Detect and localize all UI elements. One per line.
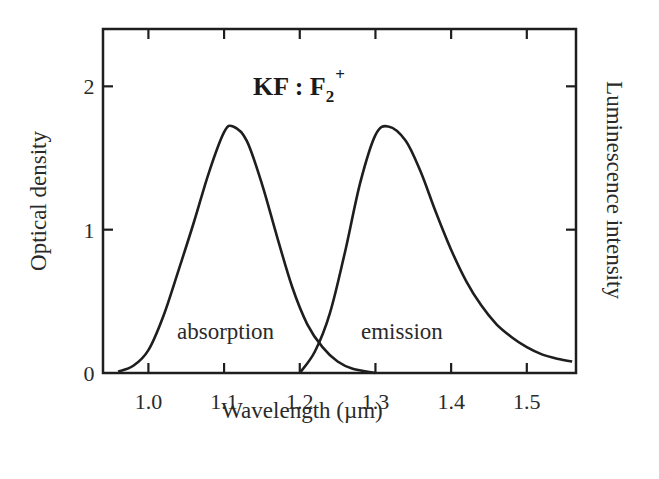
chart: 1.01.11.21.31.41.5 012 absorption emissi… — [0, 0, 659, 479]
chart-title-superscript: + — [335, 65, 345, 84]
y-tick-label: 2 — [84, 74, 95, 99]
chart-title: KF : F2+ — [253, 65, 345, 106]
x-axis-title: Wavelength (µm) — [221, 398, 382, 423]
y-axis-ticks — [103, 86, 576, 229]
y-axis-tick-labels: 012 — [84, 74, 95, 386]
y-axis-title-left: Optical density — [26, 131, 51, 271]
y-tick-label: 1 — [84, 218, 95, 243]
x-tick-label: 1.4 — [437, 389, 465, 414]
x-tick-label: 1.0 — [135, 389, 163, 414]
y-axis-title-right: Luminescence intensity — [602, 81, 627, 299]
y-tick-label: 0 — [84, 361, 95, 386]
emission-label: emission — [361, 319, 443, 344]
chart-title-main: KF : F — [253, 72, 326, 101]
absorption-label: absorption — [177, 319, 275, 344]
chart-title-subscript: 2 — [326, 87, 335, 106]
x-tick-label: 1.5 — [513, 389, 541, 414]
